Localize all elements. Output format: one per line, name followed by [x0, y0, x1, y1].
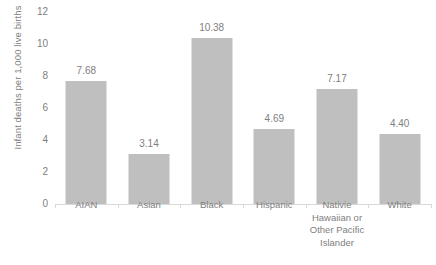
x-axis-label-line: Islander	[306, 237, 369, 250]
x-axis-tick	[431, 204, 432, 208]
bar[interactable]	[379, 134, 420, 204]
plot-area: 7.683.1410.384.697.174.40	[55, 12, 431, 192]
x-axis-label-line: Hispanic	[243, 199, 306, 212]
bar-chart: Infant deaths per 1,000 live births 0246…	[0, 0, 436, 265]
bar-slot: 10.38	[180, 12, 243, 192]
bar-slot: 3.14	[118, 12, 181, 192]
x-axis-category-label: White	[368, 199, 431, 212]
x-axis-label-line: Hawaiian or	[306, 212, 369, 225]
bar-value-label: 7.17	[327, 74, 346, 84]
x-axis-label-line: Other Pacific	[306, 224, 369, 237]
x-axis-category-label: Asian	[118, 199, 181, 212]
bar[interactable]	[66, 81, 107, 204]
x-axis-label-line: Black	[180, 199, 243, 212]
y-axis-title: Infant deaths per 1,000 live births	[12, 0, 23, 163]
y-axis-tick-label: 10	[22, 39, 48, 49]
y-axis-tick-label: 0	[22, 199, 48, 209]
x-axis-category-labels: AIANAsianBlackHispanicNativieHawaiian or…	[55, 199, 431, 263]
bar-value-label: 10.38	[199, 23, 224, 33]
bar[interactable]	[191, 38, 232, 204]
x-axis-label-line: Asian	[118, 199, 181, 212]
y-axis-tick-labels: 024681012	[22, 0, 48, 195]
x-axis-label-line: White	[368, 199, 431, 212]
bar[interactable]	[128, 154, 169, 204]
bar-slot: 7.17	[306, 12, 369, 192]
bar[interactable]	[316, 89, 357, 204]
x-axis-category-label: Black	[180, 199, 243, 212]
bar[interactable]	[254, 129, 295, 204]
bar-value-label: 4.69	[265, 114, 284, 124]
y-axis-tick-label: 12	[22, 7, 48, 17]
y-axis-tick-label: 6	[22, 103, 48, 113]
bar-slot: 4.40	[368, 12, 431, 192]
y-axis-tick-label: 2	[22, 167, 48, 177]
x-axis-category-label: Hispanic	[243, 199, 306, 212]
y-axis-tick-label: 4	[22, 135, 48, 145]
y-axis-tick-label: 8	[22, 71, 48, 81]
bar-slot: 4.69	[243, 12, 306, 192]
x-axis-label-line: AIAN	[55, 199, 118, 212]
bar-value-label: 4.40	[390, 119, 409, 129]
bar-slot: 7.68	[55, 12, 118, 192]
bar-value-label: 7.68	[77, 66, 96, 76]
x-axis-label-line: Nativie	[306, 199, 369, 212]
bar-value-label: 3.14	[139, 139, 158, 149]
x-axis-category-label: NativieHawaiian orOther PacificIslander	[306, 199, 369, 249]
x-axis-category-label: AIAN	[55, 199, 118, 212]
